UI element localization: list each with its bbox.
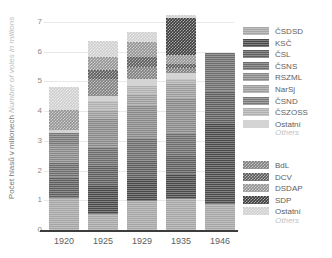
bar-segment[interactable] [166,133,196,156]
bar-segment[interactable] [166,18,196,55]
bar-segment[interactable] [88,119,118,148]
legend-swatch [243,62,269,70]
y-tick-label: 4 [24,107,42,115]
bar-segment[interactable] [205,91,235,124]
legend-swatch [243,85,269,93]
legend-label: SDP [275,196,291,205]
bar-segment[interactable] [49,198,79,230]
legend-label: ČSDSD [275,27,303,36]
bar-segment[interactable] [88,41,118,58]
bar-segment[interactable] [127,67,157,79]
bar-segment[interactable] [127,32,157,41]
bar-segment[interactable] [88,147,118,165]
bar-1935[interactable] [166,15,196,230]
bar-segment[interactable] [127,161,157,179]
bar-segment[interactable] [166,98,196,133]
bar-segment[interactable] [88,101,118,110]
legend-label: ČSNS [275,62,297,71]
x-axis-line [40,230,238,232]
bar-segment[interactable] [88,214,118,230]
legend-swatch [243,97,269,105]
bar-segment[interactable] [88,110,118,119]
bar-segment[interactable] [127,94,157,105]
bar-segment[interactable] [88,186,118,214]
bar-segment[interactable] [205,204,235,230]
legend-label: ČSZOSS [275,108,308,117]
legend-swatch [243,39,269,47]
legend-label: DSDAP [275,184,303,193]
bar-segment[interactable] [205,124,235,204]
legend-label: ČSL [275,50,291,59]
bar-1929[interactable] [127,62,157,230]
legend-label-en: Others [275,128,299,137]
legend-label: NarSj [275,85,295,94]
bar-segment[interactable] [127,179,157,201]
x-tick-label: 1946 [193,236,247,246]
y-axis-label-en: Number of votes in millions [7,17,16,113]
bar-segment[interactable] [166,79,196,84]
bar-segment[interactable] [49,110,79,131]
legend-swatch [243,184,269,192]
bar-segment[interactable] [127,42,157,57]
bar-segment[interactable] [49,163,79,178]
legend-swatch [243,196,269,204]
bar-segment[interactable] [88,57,118,69]
bar-segment[interactable] [127,86,157,95]
y-tick-label: 3 [24,137,42,145]
bar-segment[interactable] [127,105,157,138]
bar-1946[interactable] [205,53,235,230]
bar-segment[interactable] [127,57,157,67]
bar-segment[interactable] [88,96,118,101]
bar-segment[interactable] [166,15,196,18]
bar-segment[interactable] [166,156,196,174]
y-axis-ticks: 01234567 [16,0,42,232]
bar-segment[interactable] [88,70,118,80]
bar-segment[interactable] [127,201,157,230]
bar-1920[interactable] [49,87,79,230]
bar-segment[interactable] [88,166,118,187]
bar-segment[interactable] [127,79,157,86]
legend-swatch [243,108,269,116]
y-tick-label: 1 [24,196,42,204]
legend-swatch [243,120,269,128]
legend-label: RSZML [275,73,302,82]
bar-segment[interactable] [166,174,196,199]
legend-swatch [243,207,269,215]
bar-segment[interactable] [49,177,79,198]
y-axis-label-cz: Počet hlasů v milionech [7,115,16,199]
y-tick-label: 5 [24,77,42,85]
bar-segment[interactable] [166,73,196,80]
gridline [44,22,234,23]
legend-swatch [243,173,269,181]
bar-segment[interactable] [205,53,235,92]
legend-swatch [243,27,269,35]
legend-label: ČSND [275,97,298,106]
legend-label: BdL [275,161,289,170]
legend-swatch [243,161,269,169]
legend-swatch [243,73,269,81]
y-tick-label: 2 [24,167,42,175]
bar-segment[interactable] [166,68,196,72]
plot-area [44,22,234,230]
legend-label-en: Others [275,216,299,225]
bar-segment[interactable] [49,133,79,145]
bar-segment[interactable] [49,145,79,163]
bar-1925[interactable] [88,70,118,230]
bar-segment[interactable] [88,79,118,96]
y-tick-label: 7 [24,18,42,26]
bar-segment[interactable] [49,130,79,133]
legend-swatch [243,50,269,58]
bar-segment[interactable] [49,87,79,109]
y-tick-label: 6 [24,48,42,56]
bar-segment[interactable] [166,84,196,98]
stacked-bar-chart: Počet hlasů v milionech Number of votes … [0,0,332,258]
legend-label: DCV [275,173,292,182]
bar-segment[interactable] [127,138,157,161]
bar-segment[interactable] [166,64,196,69]
bar-segment[interactable] [166,55,196,64]
legend-label: KSČ [275,39,291,48]
bar-segment[interactable] [166,199,196,230]
